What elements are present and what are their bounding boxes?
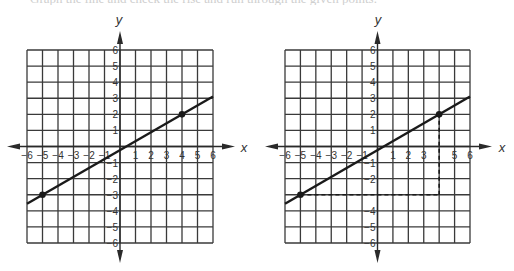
y-tick-label: 1 bbox=[112, 125, 118, 136]
x-tick-label: 3 bbox=[421, 150, 427, 161]
x-tick-label: −5 bbox=[37, 150, 49, 161]
y-tick-label: 3 bbox=[370, 93, 376, 104]
x-axis-left-arrow-icon bbox=[7, 144, 20, 150]
x-axis-label: x bbox=[498, 140, 506, 155]
data-point bbox=[297, 191, 304, 198]
x-tick-label: 2 bbox=[148, 150, 154, 161]
x-tick-label: 2 bbox=[406, 150, 412, 161]
y-tick-label: 2 bbox=[370, 109, 376, 120]
y-tick-label: 3 bbox=[112, 93, 118, 104]
graph-left: −6−5−4−3−2−1123456−6−5−4−3−2−1123456xy bbox=[7, 12, 248, 263]
x-tick-label: 1 bbox=[133, 150, 139, 161]
y-tick-label: −4 bbox=[107, 206, 119, 217]
y-tick-label: −5 bbox=[364, 222, 376, 233]
y-tick-label: 1 bbox=[370, 125, 376, 136]
y-axis-label: y bbox=[115, 12, 124, 27]
x-axis-right-arrow-icon bbox=[479, 144, 492, 150]
x-tick-label: −2 bbox=[83, 150, 95, 161]
y-tick-label: 5 bbox=[370, 61, 376, 72]
x-tick-label: −4 bbox=[52, 150, 64, 161]
x-axis-label: x bbox=[240, 140, 248, 155]
data-point bbox=[436, 111, 443, 118]
y-tick-label: −5 bbox=[107, 222, 119, 233]
y-axis-down-arrow-icon bbox=[375, 250, 381, 263]
y-tick-label: −6 bbox=[107, 238, 119, 249]
data-point bbox=[179, 111, 186, 118]
y-axis-label: y bbox=[374, 12, 383, 27]
x-tick-label: −6 bbox=[21, 150, 33, 161]
x-tick-label: 3 bbox=[164, 150, 170, 161]
x-tick-label: −3 bbox=[68, 150, 80, 161]
y-tick-label: 5 bbox=[112, 61, 118, 72]
x-tick-label: 6 bbox=[210, 150, 216, 161]
x-axis-left-arrow-icon bbox=[265, 144, 278, 150]
x-tick-label: −5 bbox=[295, 150, 307, 161]
x-tick-label: 5 bbox=[195, 150, 201, 161]
y-tick-label: −6 bbox=[364, 238, 376, 249]
x-axis-right-arrow-icon bbox=[222, 144, 235, 150]
x-tick-label: 1 bbox=[390, 150, 396, 161]
x-tick-label: −4 bbox=[310, 150, 322, 161]
y-tick-label: −4 bbox=[364, 206, 376, 217]
graph-right-with-rise-run: −6−5−4−3−2−112356−6−5−4−2−1123456xy bbox=[265, 12, 506, 263]
y-tick-label: 4 bbox=[112, 77, 118, 88]
y-tick-label: −3 bbox=[107, 190, 119, 201]
y-tick-label: 6 bbox=[370, 45, 376, 56]
y-tick-label: 4 bbox=[370, 77, 376, 88]
y-axis-up-arrow-icon bbox=[375, 31, 381, 44]
y-axis-up-arrow-icon bbox=[117, 31, 123, 44]
y-tick-label: −2 bbox=[364, 174, 376, 185]
y-tick-label: 2 bbox=[112, 109, 118, 120]
y-tick-label: −1 bbox=[364, 158, 376, 169]
x-tick-label: 5 bbox=[452, 150, 458, 161]
x-tick-label: −2 bbox=[341, 150, 353, 161]
x-tick-label: 6 bbox=[467, 150, 473, 161]
x-tick-label: −6 bbox=[279, 150, 291, 161]
x-tick-label: 4 bbox=[179, 150, 185, 161]
data-point bbox=[39, 191, 46, 198]
y-tick-label: 6 bbox=[112, 45, 118, 56]
y-axis-down-arrow-icon bbox=[117, 250, 123, 263]
coordinate-graphs: −6−5−4−3−2−1123456−6−5−4−3−2−1123456xy −… bbox=[0, 0, 514, 271]
x-tick-label: −3 bbox=[326, 150, 338, 161]
y-tick-label: −2 bbox=[107, 174, 119, 185]
y-tick-label: −1 bbox=[107, 158, 119, 169]
